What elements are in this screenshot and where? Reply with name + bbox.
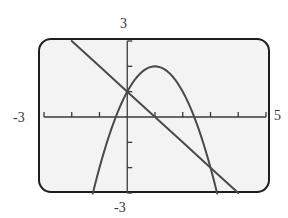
y-min-label: -3 (114, 201, 126, 215)
x-min-label: -3 (13, 111, 25, 125)
parabola-curve (93, 66, 217, 193)
graph-plot (0, 0, 288, 218)
x-max-label: 5 (274, 109, 281, 123)
y-max-label: 3 (120, 17, 127, 31)
